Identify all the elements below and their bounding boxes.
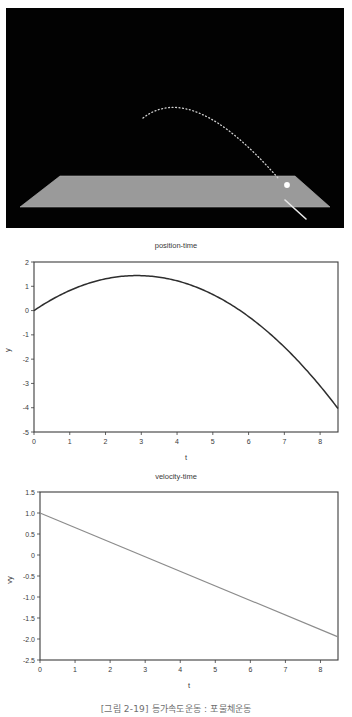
y-tick-label: -2.0 [23,636,35,643]
simulation-viewport[interactable] [6,8,344,228]
y-tick-label: 1.5 [25,489,35,496]
x-axis-label-position: t [185,453,188,462]
y-tick-label: 1.0 [25,510,35,517]
x-tick-label: 7 [282,438,286,445]
y-tick-label: -2 [23,356,29,363]
y-tick-label: -1.5 [23,615,35,622]
x-tick-labels-velocity: 012345678 [38,666,322,673]
x-tick-label: 2 [108,666,112,673]
x-tick-label: 5 [211,438,215,445]
y-tick-label: -3 [23,380,29,387]
x-tick-label: 2 [104,438,108,445]
x-tick-label: 6 [248,666,252,673]
y-tick-label: 0.5 [25,531,35,538]
x-tick-label: 3 [143,666,147,673]
x-tick-label: 8 [318,438,322,445]
ground-plane [20,176,330,207]
plot-frame-position [34,262,338,432]
y-tick-label: -4 [23,404,29,411]
y-tick-label: -5 [23,429,29,436]
scene-canvas[interactable] [6,8,344,228]
y-tick-label: 1 [25,283,29,290]
chart-velocity-time: velocity-time 012345678 -2.5-2.0-1.5-1.0… [0,470,352,702]
y-tick-label: 0 [31,552,35,559]
y-tick-label: -2.5 [23,657,35,664]
x-tick-label: 0 [38,666,42,673]
x-tick-labels-position: 012345678 [32,438,322,445]
y-axis-label-velocity: vy [5,576,14,584]
chart-title-velocity: velocity-time [155,472,197,481]
x-tick-label: 3 [139,438,143,445]
x-tick-label: 5 [213,666,217,673]
x-tick-label: 0 [32,438,36,445]
y-tick-label: 0 [25,307,29,314]
x-tick-label: 8 [319,666,323,673]
chart-title-position: position-time [155,241,198,250]
position-time-canvas: position-time 012345678 -5-4-3-2-1012 t … [0,238,352,472]
y-tick-label: 2 [25,259,29,266]
y-tick-labels-velocity: -2.5-2.0-1.5-1.0-0.500.51.01.5 [23,489,35,664]
y-tick-label: -1.0 [23,594,35,601]
projectile-ball[interactable] [284,182,290,188]
figure-caption: [그림 2-19] 등가속도운동 : 포물체운동 [0,702,352,715]
velocity-time-canvas: velocity-time 012345678 -2.5-2.0-1.5-1.0… [0,470,352,702]
x-tick-label: 1 [73,666,77,673]
plot-frame-velocity [40,492,338,660]
y-tick-label: -0.5 [23,573,35,580]
x-tick-label: 4 [178,666,182,673]
y-axis-label-position: y [3,348,12,352]
x-tick-label: 1 [68,438,72,445]
x-tick-label: 7 [283,666,287,673]
y-tick-label: -1 [23,331,29,338]
x-tick-label: 4 [175,438,179,445]
x-tick-label: 6 [247,438,251,445]
y-tick-labels-position: -5-4-3-2-1012 [23,259,29,436]
x-axis-label-velocity: t [188,681,191,690]
chart-position-time: position-time 012345678 -5-4-3-2-1012 t … [0,238,352,472]
